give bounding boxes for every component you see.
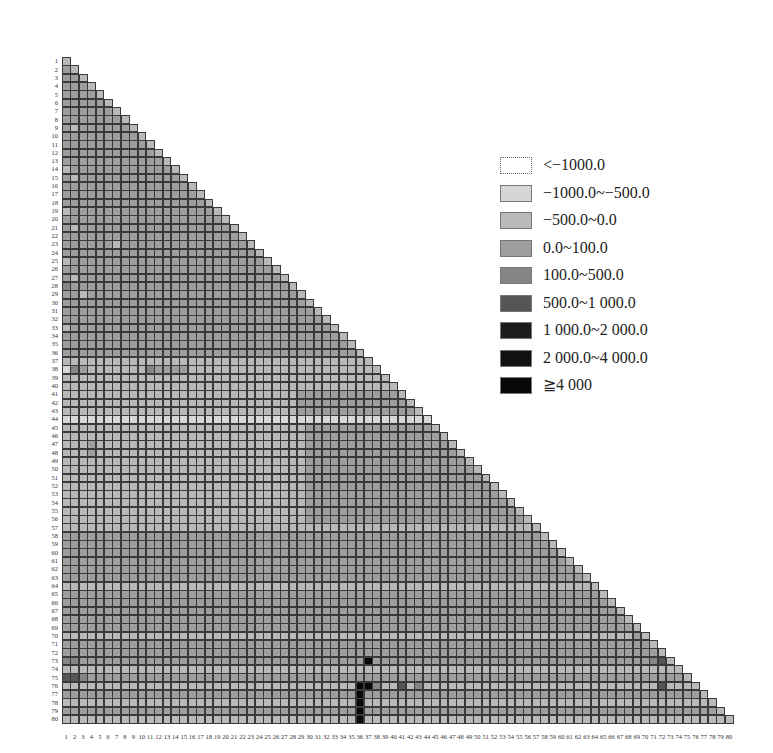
legend-item: 500.0~1 000.0	[500, 293, 730, 315]
heatmap-cell	[725, 715, 734, 724]
y-tick-label: 74	[38, 665, 58, 673]
y-tick-label: 35	[38, 340, 58, 348]
y-tick-label: 12	[38, 149, 58, 157]
legend-label: −1000.0~−500.0	[543, 183, 650, 203]
y-tick-label: 52	[38, 482, 58, 490]
legend-swatch	[500, 157, 532, 174]
y-tick-label: 75	[38, 674, 58, 682]
y-tick-label: 6	[38, 99, 58, 107]
y-tick-label: 30	[38, 299, 58, 307]
y-tick-label: 21	[38, 224, 58, 232]
y-tick-label: 38	[38, 365, 58, 373]
y-tick-label: 71	[38, 640, 58, 648]
y-tick-label: 78	[38, 699, 58, 707]
legend-swatch	[500, 267, 532, 284]
y-tick-label: 62	[38, 565, 58, 573]
y-tick-label: 39	[38, 374, 58, 382]
y-tick-label: 37	[38, 357, 58, 365]
y-tick-label: 32	[38, 315, 58, 323]
y-tick-label: 60	[38, 549, 58, 557]
y-tick-label: 73	[38, 657, 58, 665]
y-tick-label: 41	[38, 390, 58, 398]
y-tick-label: 67	[38, 607, 58, 615]
legend-item: 1 000.0~2 000.0	[500, 320, 730, 342]
y-tick-label: 16	[38, 182, 58, 190]
y-tick-label: 1	[38, 57, 58, 65]
y-tick-label: 29	[38, 290, 58, 298]
y-tick-label: 8	[38, 116, 58, 124]
y-tick-label: 50	[38, 465, 58, 473]
y-tick-label: 31	[38, 307, 58, 315]
y-tick-label: 76	[38, 682, 58, 690]
y-tick-label: 3	[38, 74, 58, 82]
y-tick-label: 65	[38, 590, 58, 598]
y-tick-label: 23	[38, 240, 58, 248]
y-tick-label: 20	[38, 215, 58, 223]
legend-label: 100.0~500.0	[543, 265, 624, 285]
y-tick-label: 48	[38, 449, 58, 457]
y-tick-label: 27	[38, 274, 58, 282]
y-tick-label: 5	[38, 91, 58, 99]
y-tick-label: 51	[38, 474, 58, 482]
y-tick-label: 63	[38, 574, 58, 582]
legend-label: −500.0~0.0	[543, 210, 617, 230]
legend-swatch	[500, 295, 532, 312]
y-tick-label: 54	[38, 499, 58, 507]
y-tick-label: 11	[38, 141, 58, 149]
y-tick-label: 70	[38, 632, 58, 640]
y-tick-label: 57	[38, 524, 58, 532]
legend-item: −500.0~0.0	[500, 210, 730, 232]
legend-item: 100.0~500.0	[500, 265, 730, 287]
y-tick-label: 18	[38, 199, 58, 207]
legend-label: 1 000.0~2 000.0	[543, 320, 648, 340]
x-tick-label: 80	[725, 733, 734, 741]
y-tick-label: 13	[38, 157, 58, 165]
y-tick-label: 10	[38, 132, 58, 140]
y-tick-label: 46	[38, 432, 58, 440]
y-tick-label: 34	[38, 332, 58, 340]
legend-label: 500.0~1 000.0	[543, 293, 636, 313]
y-tick-label: 25	[38, 257, 58, 265]
legend-item: 0.0~100.0	[500, 238, 730, 260]
legend-swatch	[500, 240, 532, 257]
y-tick-label: 61	[38, 557, 58, 565]
y-tick-label: 72	[38, 649, 58, 657]
legend-item: <−1000.0	[500, 155, 730, 177]
y-tick-label: 66	[38, 599, 58, 607]
y-tick-label: 59	[38, 540, 58, 548]
y-tick-label: 40	[38, 382, 58, 390]
y-tick-label: 28	[38, 282, 58, 290]
y-tick-label: 17	[38, 190, 58, 198]
legend-label: ≧4 000	[543, 375, 592, 395]
y-tick-label: 33	[38, 324, 58, 332]
legend-swatch	[500, 212, 532, 229]
legend-label: 2 000.0~4 000.0	[543, 348, 648, 368]
y-tick-label: 55	[38, 507, 58, 515]
heatmap-chart: 1234567891011121314151617181920212223242…	[0, 0, 773, 753]
y-tick-label: 4	[38, 82, 58, 90]
y-tick-label: 69	[38, 624, 58, 632]
y-tick-label: 79	[38, 707, 58, 715]
y-tick-label: 45	[38, 424, 58, 432]
y-tick-label: 2	[38, 66, 58, 74]
y-tick-label: 43	[38, 407, 58, 415]
y-tick-label: 53	[38, 490, 58, 498]
y-tick-label: 58	[38, 532, 58, 540]
legend-swatch	[500, 322, 532, 339]
y-tick-label: 49	[38, 457, 58, 465]
y-tick-label: 9	[38, 124, 58, 132]
y-tick-label: 77	[38, 690, 58, 698]
y-tick-label: 68	[38, 615, 58, 623]
y-tick-label: 64	[38, 582, 58, 590]
y-tick-label: 47	[38, 440, 58, 448]
legend-label: 0.0~100.0	[543, 238, 608, 258]
legend-item: −1000.0~−500.0	[500, 183, 730, 205]
y-tick-label: 56	[38, 515, 58, 523]
y-tick-label: 19	[38, 207, 58, 215]
y-tick-label: 22	[38, 232, 58, 240]
legend-swatch	[500, 350, 532, 367]
y-tick-label: 44	[38, 415, 58, 423]
legend-label: <−1000.0	[543, 155, 605, 175]
legend-item: 2 000.0~4 000.0	[500, 348, 730, 370]
y-tick-label: 14	[38, 165, 58, 173]
